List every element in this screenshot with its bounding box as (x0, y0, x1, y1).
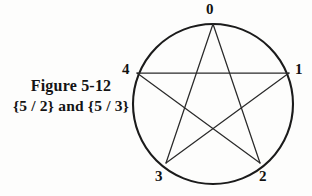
star-edge-0-2 (213, 24, 260, 163)
circumcircle (133, 24, 293, 184)
star-edge-1-3 (166, 73, 289, 163)
pentagram-diagram (0, 0, 312, 196)
figure-container: Figure 5-12 {5 / 2} and {5 / 3} 01234 (0, 0, 312, 196)
vertex-label-4: 4 (122, 62, 130, 77)
star-edge-2-4 (137, 73, 260, 163)
vertex-label-1: 1 (295, 62, 303, 77)
vertex-label-0: 0 (206, 2, 214, 17)
vertex-label-3: 3 (155, 169, 163, 184)
vertex-label-2: 2 (259, 169, 267, 184)
star-edge-3-0 (166, 24, 213, 163)
